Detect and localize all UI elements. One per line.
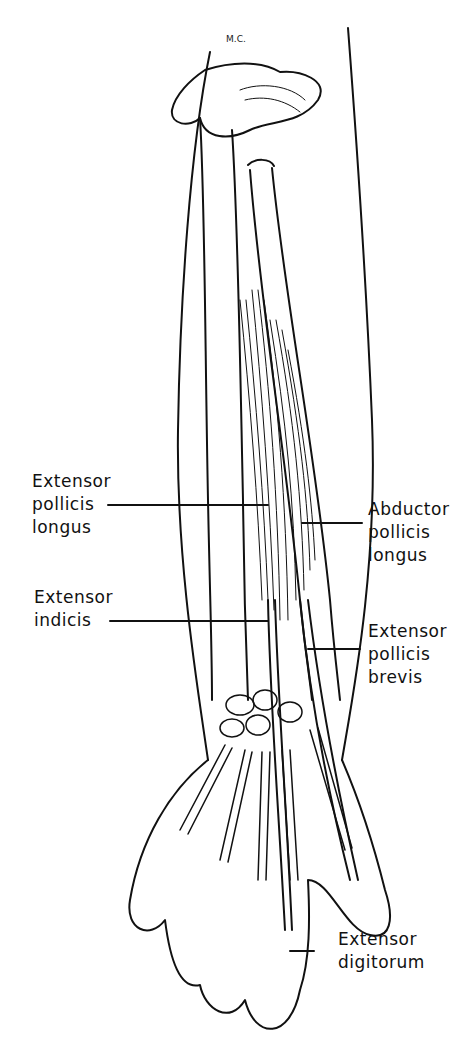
label-extensor-pollicis-brevis: Extensor pollicis brevis bbox=[368, 620, 447, 689]
illustrator-signature: M.C. bbox=[226, 34, 246, 44]
label-extensor-indicis: Extensor indicis bbox=[34, 586, 113, 632]
arm-outline-left bbox=[178, 52, 210, 760]
label-extensor-pollicis-longus: Extensor pollicis longus bbox=[32, 470, 111, 539]
carpal-bones bbox=[220, 690, 302, 737]
label-abductor-pollicis-longus: Abductor pollicis longus bbox=[368, 498, 449, 567]
muscle-hatching bbox=[240, 290, 315, 620]
hand-outline bbox=[129, 760, 390, 1029]
tendon-thumb bbox=[300, 600, 350, 880]
label-extensor-digitorum: Extensor digitorum bbox=[338, 928, 425, 974]
ulna bbox=[200, 118, 212, 700]
